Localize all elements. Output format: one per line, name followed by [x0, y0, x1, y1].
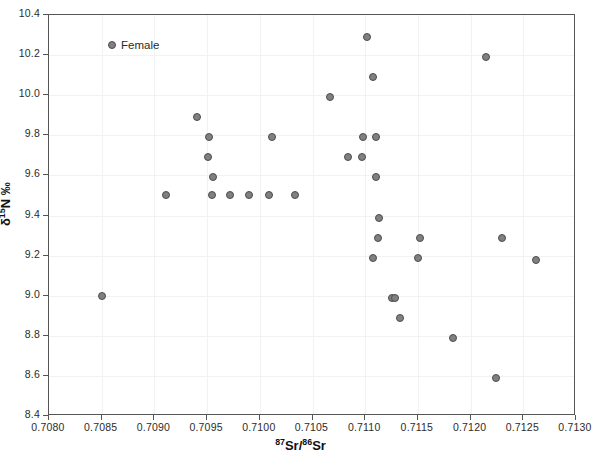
scatter-chart-figure: Female 10.410.210.09.89.69.49.29.08.88.6… [0, 0, 601, 470]
y-tick-mark [43, 335, 48, 336]
legend-label-female: Female [121, 39, 159, 51]
y-tick-mark [43, 255, 48, 256]
data-point [162, 191, 170, 199]
x-tick-mark [259, 415, 260, 420]
gridline-horizontal [49, 336, 574, 337]
x-axis-label: 87Sr/86Sr [0, 437, 601, 453]
gridline-vertical [418, 15, 419, 414]
data-point [363, 33, 371, 41]
y-tick-mark [43, 174, 48, 175]
data-point [482, 53, 490, 61]
y-tick-label: 8.4 [0, 408, 40, 420]
data-point [375, 214, 383, 222]
legend-marker-icon [108, 41, 116, 49]
gridline-vertical [207, 15, 208, 414]
x-tick-mark [522, 415, 523, 420]
gridline-vertical [154, 15, 155, 414]
y-tick-label: 10.0 [0, 87, 40, 99]
data-point [498, 234, 506, 242]
data-point [291, 191, 299, 199]
data-point [449, 334, 457, 342]
data-point [372, 173, 380, 181]
gridline-vertical [260, 15, 261, 414]
data-point [205, 133, 213, 141]
x-tick-mark [101, 415, 102, 420]
data-point [369, 73, 377, 81]
y-tick-label: 9.6 [0, 167, 40, 179]
gridline-horizontal [49, 216, 574, 217]
x-tick-mark [312, 415, 313, 420]
y-tick-mark [43, 94, 48, 95]
y-tick-label: 10.2 [0, 47, 40, 59]
gridline-vertical [365, 15, 366, 414]
x-tick-mark [575, 415, 576, 420]
gridline-horizontal [49, 256, 574, 257]
data-point [268, 133, 276, 141]
x-tick-mark [364, 415, 365, 420]
data-point [369, 254, 377, 262]
data-point [391, 294, 399, 302]
x-tick-mark [153, 415, 154, 420]
y-tick-mark [43, 14, 48, 15]
data-point [193, 113, 201, 121]
gridline-horizontal [49, 95, 574, 96]
y-tick-mark [43, 134, 48, 135]
y-tick-mark [43, 54, 48, 55]
data-point [492, 374, 500, 382]
gridline-horizontal [49, 175, 574, 176]
data-point [372, 133, 380, 141]
chart-legend: Female [108, 39, 159, 51]
gridline-vertical [523, 15, 524, 414]
x-tick-mark [417, 415, 418, 420]
x-tick-mark [470, 415, 471, 420]
y-tick-mark [43, 375, 48, 376]
gridline-vertical [471, 15, 472, 414]
x-tick-label: 0.7130 [540, 421, 601, 433]
data-point [326, 93, 334, 101]
data-point [396, 314, 404, 322]
data-point [204, 153, 212, 161]
y-tick-mark [43, 295, 48, 296]
data-point [265, 191, 273, 199]
gridline-vertical [313, 15, 314, 414]
gridline-vertical [102, 15, 103, 414]
y-tick-label: 8.8 [0, 328, 40, 340]
y-tick-mark [43, 215, 48, 216]
data-point [532, 256, 540, 264]
data-point [208, 191, 216, 199]
gridline-horizontal [49, 55, 574, 56]
data-point [98, 292, 106, 300]
plot-area: Female [48, 14, 575, 415]
data-point [245, 191, 253, 199]
data-point [226, 191, 234, 199]
data-point [416, 234, 424, 242]
x-tick-mark [48, 415, 49, 420]
y-tick-label: 10.4 [0, 7, 40, 19]
data-point [374, 234, 382, 242]
x-tick-mark [206, 415, 207, 420]
data-point [344, 153, 352, 161]
y-tick-label: 9.8 [0, 127, 40, 139]
gridline-horizontal [49, 296, 574, 297]
data-point [414, 254, 422, 262]
y-tick-label: 9.2 [0, 248, 40, 260]
y-axis-label: δ15N ‰ [0, 182, 13, 226]
y-tick-label: 9.0 [0, 288, 40, 300]
y-tick-label: 8.6 [0, 368, 40, 380]
gridline-horizontal [49, 135, 574, 136]
data-point [209, 173, 217, 181]
